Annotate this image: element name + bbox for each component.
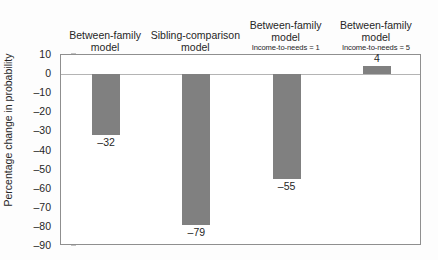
bar-value-label: –55 [278, 180, 296, 192]
y-tick-label: –90 [33, 239, 51, 251]
y-tick-label: –20 [33, 105, 51, 117]
plot-area: –32–79–554 [60, 54, 421, 245]
y-axis-title: Percentage change in probability [0, 0, 16, 260]
bar [182, 74, 210, 225]
y-tick-label: –30 [33, 124, 51, 136]
y-tick-label: –50 [33, 163, 51, 175]
y-tick-label: –80 [33, 220, 51, 232]
column-header-line2: model [181, 41, 210, 53]
column-header-line1: Between-family [340, 19, 412, 31]
column-header-2: Between-family model Income-to-needs = 1 [241, 0, 331, 54]
column-header-line3: Income-to-needs = 1 [252, 43, 320, 53]
column-headers: Between-family model Sibling-comparison … [60, 0, 421, 54]
bar-value-label: –32 [97, 136, 115, 148]
bar [92, 74, 120, 135]
y-tick-label: 10 [39, 48, 51, 60]
column-header-3: Between-family model Income-to-needs = 5 [331, 0, 421, 54]
column-header-line1: Between-family [250, 19, 322, 31]
bar-chart-figure: Between-family model Sibling-comparison … [0, 0, 438, 260]
bar-value-label: 4 [374, 52, 380, 64]
bar-value-label: –79 [188, 226, 206, 238]
bar [363, 66, 391, 74]
column-header-line1: Between-family [69, 29, 141, 41]
y-tick-label: –10 [33, 86, 51, 98]
column-header-line2: model [271, 31, 300, 43]
y-tick-label: 0 [45, 67, 51, 79]
column-header-line2: model [362, 31, 391, 43]
y-tick-label: –70 [33, 201, 51, 213]
column-header-line1: Sibling-comparison [151, 29, 240, 41]
y-tick-label: –40 [33, 144, 51, 156]
column-header-0: Between-family model [60, 0, 150, 54]
y-axis-ticks: 100–10–20–30–40–50–60–70–80–90 [16, 0, 55, 260]
y-axis-title-text: Percentage change in probability [2, 54, 14, 207]
column-header-1: Sibling-comparison model [150, 0, 240, 54]
y-tick-label: –60 [33, 182, 51, 194]
bar [273, 74, 301, 179]
column-header-line2: model [91, 41, 120, 53]
